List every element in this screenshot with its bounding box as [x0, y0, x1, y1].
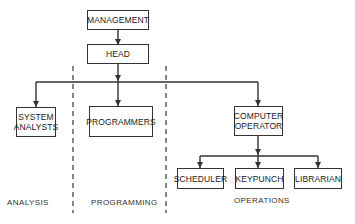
node-head-label: HEAD [106, 49, 130, 59]
node-computer-operator: COMPUTER OPERATOR [234, 106, 283, 136]
node-scheduler-label: SCHEDULER [174, 174, 227, 184]
node-system-analysts-label: SYSTEM ANALYSTS [14, 112, 59, 132]
node-system-analysts: SYSTEM ANALYSTS [16, 107, 56, 137]
node-librarian-label: LIBRARIAN [295, 174, 341, 184]
node-keypunch: KEYPUNCH [235, 168, 284, 189]
node-keypunch-label: KEYPUNCH [235, 174, 283, 184]
section-label-operations: OPERATIONS [234, 196, 290, 205]
node-management: MANAGEMENT [87, 10, 149, 30]
node-programmers-label: PROGRAMMERS [86, 117, 156, 127]
section-label-programming: PROGRAMMING [91, 198, 158, 207]
section-label-analysis: ANALYSIS [7, 198, 49, 207]
node-management-label: MANAGEMENT [87, 15, 149, 25]
node-librarian: LIBRARIAN [294, 168, 342, 189]
node-scheduler: SCHEDULER [177, 168, 224, 189]
node-programmers: PROGRAMMERS [89, 106, 153, 137]
node-head: HEAD [87, 44, 149, 64]
node-computer-operator-label: COMPUTER OPERATOR [234, 111, 283, 131]
